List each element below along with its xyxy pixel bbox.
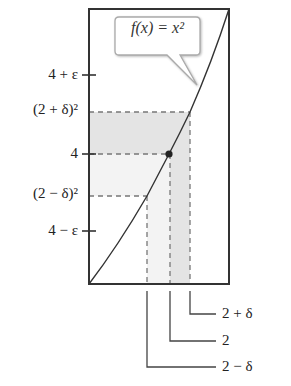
point-2-4	[165, 150, 172, 157]
leader-line	[170, 291, 216, 341]
y-label-4-minus-epsilon: 4 − ε	[48, 223, 78, 238]
leader-line	[190, 291, 216, 314]
leader-line	[147, 291, 216, 367]
function-label: f(x) = x²	[115, 19, 200, 37]
y-label-2-minus-delta-squared: (2 − δ)²	[33, 186, 78, 201]
y-label-4: 4	[71, 146, 79, 161]
x-label-2-minus-delta: 2 − δ	[222, 359, 253, 374]
x-label-2-plus-delta: 2 + δ	[222, 306, 253, 321]
dark-vertical-band	[170, 112, 190, 284]
x-label-2: 2	[222, 333, 230, 348]
y-label-2-plus-delta-squared: (2 + δ)²	[33, 102, 78, 117]
y-label-4-plus-epsilon: 4 + ε	[48, 67, 78, 82]
